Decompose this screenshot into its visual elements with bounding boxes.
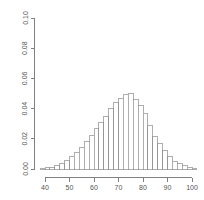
y-tick-labels: 0.000.020.040.060.080.10: [22, 11, 29, 176]
x-tick-label: 90: [164, 184, 172, 191]
histogram-bar: [55, 166, 60, 169]
y-tick-label: 0.10: [22, 11, 29, 25]
histogram-bar: [182, 166, 187, 169]
x-tick-label: 70: [115, 184, 123, 191]
histogram-bar: [133, 100, 138, 169]
histogram-bar: [177, 164, 182, 169]
histogram-bar: [153, 137, 158, 169]
histogram-bar: [168, 156, 173, 169]
histogram-bar: [138, 106, 143, 169]
histogram-bar: [84, 141, 89, 169]
histogram-bar: [89, 135, 94, 169]
histogram-bars: [40, 94, 197, 170]
x-tick-label: 100: [186, 184, 198, 191]
histogram-bar: [109, 109, 114, 169]
x-tick-label: 60: [90, 184, 98, 191]
x-tick-label: 50: [66, 184, 74, 191]
y-tick-label: 0.02: [22, 132, 29, 146]
y-tick-label: 0.06: [22, 71, 29, 85]
histogram-bar: [192, 168, 197, 169]
x-tick-labels: 405060708090100: [41, 184, 198, 191]
y-tick-label: 0.04: [22, 102, 29, 116]
histogram-bar: [158, 143, 163, 169]
x-tick-label: 80: [139, 184, 147, 191]
histogram-bar: [70, 157, 75, 169]
histogram-bar: [128, 94, 133, 170]
histogram-bar: [65, 161, 70, 169]
histogram-bar: [163, 151, 168, 169]
histogram-bar: [148, 125, 153, 169]
histogram-bar: [119, 98, 124, 169]
histogram-bar: [40, 168, 45, 169]
histogram-bar: [50, 167, 55, 169]
histogram-bar: [60, 164, 65, 169]
histogram-bar: [143, 113, 148, 169]
plot-canvas: 0.000.020.040.060.080.10 405060708090100: [0, 0, 204, 200]
histogram-bar: [79, 147, 84, 169]
histogram-bar: [94, 129, 99, 169]
histogram-bar: [45, 168, 50, 169]
y-tick-label: 0.08: [22, 41, 29, 55]
y-axis: [31, 18, 35, 169]
histogram-bar: [187, 167, 192, 169]
x-axis: [45, 178, 192, 182]
histogram-figure: 0.000.020.040.060.080.10 405060708090100: [0, 0, 204, 200]
histogram-bar: [74, 152, 79, 169]
y-tick-label: 0.00: [22, 162, 29, 176]
histogram-bar: [123, 94, 128, 169]
histogram-bar: [172, 161, 177, 169]
histogram-bar: [104, 116, 109, 169]
histogram-bar: [99, 122, 104, 169]
x-tick-label: 40: [41, 184, 49, 191]
histogram-bar: [114, 103, 119, 169]
